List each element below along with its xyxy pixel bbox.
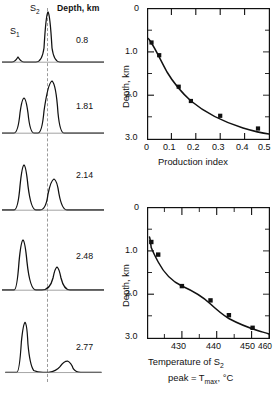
- chart2-xtick-440: 440: [206, 341, 221, 351]
- chart2-xaxis-title-line1: Temperature of S2: [148, 356, 224, 369]
- chart-production-index: [147, 8, 270, 140]
- chart2-ytick-1: 1.0: [125, 245, 138, 255]
- depth-value-2: 1.81: [76, 101, 93, 111]
- pyrogram-trace-2: [0, 71, 120, 137]
- chart1-yaxis-title: Depth, km: [120, 65, 131, 108]
- chart1-xtick-1: 0.1: [163, 142, 176, 152]
- depth-value-1: 0.8: [76, 35, 88, 45]
- depth-value-4: 2.48: [76, 251, 93, 261]
- chart1-xtick-0: 0: [144, 142, 149, 152]
- chart2-xtick-430: 430: [171, 341, 186, 351]
- chart1-xtick-4: 0.4: [236, 142, 249, 152]
- pyrogram-trace-5: [0, 312, 120, 378]
- chart-tmax: [147, 207, 270, 339]
- chart2-yaxis-title: Depth, km: [120, 264, 131, 307]
- chart1-xaxis-title: Production index: [158, 156, 228, 167]
- chart2-ytick-3: 3.0: [125, 331, 138, 341]
- chart2-xaxis-title-line2-post: , °C: [217, 372, 233, 383]
- chart2-xaxis-title-line2-sub: max: [205, 378, 218, 385]
- pyrogram-trace-3: [0, 148, 120, 214]
- chart1-xtick-3: 0.3: [212, 142, 225, 152]
- chart2-ytick-0: 0: [134, 202, 139, 212]
- chart-tmax-canvas: [147, 207, 270, 339]
- chart2-xtick-460: 460: [258, 341, 272, 351]
- figure-panel: Depth, km S2 S1 0.8 1.81: [0, 0, 277, 394]
- chart1-ytick-1: 1.0: [125, 46, 138, 56]
- pyrogram-column: Depth, km S2 S1 0.8 1.81: [0, 0, 120, 394]
- chart2-xaxis-title-line1-sub: 2: [220, 362, 224, 369]
- chart1-ytick-3: 3.0: [125, 132, 138, 142]
- depth-value-3: 2.14: [76, 170, 93, 180]
- chart1-xtick-5: 0.5: [258, 142, 271, 152]
- pyrogram-trace-4: [0, 228, 120, 294]
- chart2-xaxis-title-line2-text: peak = T: [168, 372, 205, 383]
- chart-production-index-canvas: [147, 8, 270, 140]
- chart2-xtick-450: 450: [240, 341, 255, 351]
- chart1-xtick-2: 0.2: [187, 142, 200, 152]
- chart2-xaxis-title-line2: peak = Tmax, °C: [168, 372, 233, 385]
- pyrogram-trace-1: [0, 0, 120, 66]
- chart2-xaxis-title-line1-text: Temperature of S: [148, 356, 220, 367]
- depth-value-5: 2.77: [76, 342, 93, 352]
- chart1-ytick-0: 0: [134, 3, 139, 13]
